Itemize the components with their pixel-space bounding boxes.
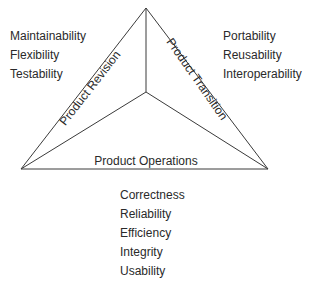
list-item: Flexibility [10, 46, 86, 65]
list-item: Integrity [120, 243, 185, 262]
list-item: Reliability [120, 205, 185, 224]
transition-factors-list: Portability Reusability Interoperability [223, 27, 302, 84]
revision-factors-list: Maintainability Flexibility Testability [10, 27, 86, 84]
list-item: Testability [10, 65, 86, 84]
list-item: Portability [223, 27, 302, 46]
mccall-quality-triangle: Product Revision Product Transition Prod… [0, 0, 310, 288]
list-item: Usability [120, 262, 185, 281]
list-item: Interoperability [223, 65, 302, 84]
list-item: Maintainability [10, 27, 86, 46]
list-item: Reusability [223, 46, 302, 65]
list-item: Efficiency [120, 224, 185, 243]
side-label-product-operations: Product Operations [94, 154, 197, 168]
list-item: Correctness [120, 186, 185, 205]
operations-factors-list: Correctness Reliability Efficiency Integ… [120, 186, 185, 281]
